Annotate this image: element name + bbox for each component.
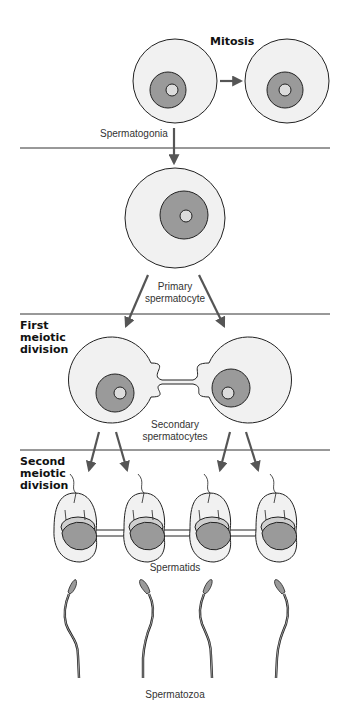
arrow-icon xyxy=(89,432,99,470)
spermatozoon xyxy=(275,580,289,678)
spermatogonium-cell xyxy=(245,39,329,123)
label-line: spermatocytes xyxy=(130,431,220,443)
arrow-icon xyxy=(246,432,258,470)
label-spermatozoa: Spermatozoa xyxy=(130,689,220,701)
spermatid-cell xyxy=(124,474,165,562)
label-secondary-spermatocytes: Secondary spermatocytes xyxy=(130,419,220,443)
spermatogonium-cell xyxy=(133,39,217,123)
label-primary-spermatocyte: Primary spermatocyte xyxy=(130,281,220,305)
label-spermatogonia: Spermatogonia xyxy=(100,128,168,140)
secondary-spermatocytes-pair xyxy=(69,337,292,423)
stage-label-second-meiotic: Second meiotic division xyxy=(20,456,68,492)
stage-label-mitosis: Mitosis xyxy=(210,36,254,48)
label-line: Secondary xyxy=(130,419,220,431)
arrow-icon xyxy=(220,432,230,470)
spermatozoon xyxy=(65,580,79,678)
stage-label-line: division xyxy=(20,344,68,356)
label-line: spermatocyte xyxy=(130,293,220,305)
spermatozoon xyxy=(140,580,154,678)
primary-spermatocyte-cell xyxy=(125,168,225,268)
spermatozoon xyxy=(200,580,212,678)
stage-label-line: division xyxy=(20,480,68,492)
label-line: Primary xyxy=(130,281,220,293)
spermatid-cell xyxy=(190,474,231,562)
label-spermatids: Spermatids xyxy=(130,562,220,574)
stage-label-first-meiotic: First meiotic division xyxy=(20,320,68,356)
spermatid-cell xyxy=(256,474,297,562)
arrow-icon xyxy=(116,432,127,470)
spermatogenesis-diagram xyxy=(0,0,351,727)
spermatids-chain xyxy=(54,474,297,562)
